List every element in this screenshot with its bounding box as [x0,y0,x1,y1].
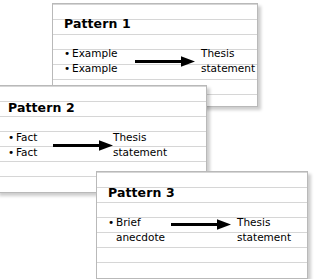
thesis-line: statement [237,230,291,245]
pattern-card-2-thesis: Thesis statement [113,130,167,160]
premise-item: Example [64,61,118,76]
right-arrow-icon [171,217,233,231]
pattern-card-2-title: Pattern 2 [8,100,75,115]
premise-item: Example [64,46,118,61]
thesis-line: Thesis [113,130,167,145]
pattern-card-3: Pattern 3 Brief anecdote Thesis statemen… [96,171,308,279]
thesis-line: Thesis [201,46,255,61]
right-arrow-icon [135,54,197,68]
thesis-line: statement [113,145,167,160]
right-arrow-icon [53,138,115,152]
thesis-line: Thesis [237,215,291,230]
pattern-card-1-thesis: Thesis statement [201,46,255,76]
premise-item: Fact [8,130,37,145]
premise-item: anecdote [108,230,165,245]
pattern-card-3-title: Pattern 3 [108,185,175,200]
pattern-card-3-thesis: Thesis statement [237,215,291,245]
premise-item: Brief [108,215,165,230]
pattern-card-3-body: Pattern 3 Brief anecdote Thesis statemen… [97,172,307,278]
premise-item: Fact [8,145,37,160]
pattern-card-1-title: Pattern 1 [64,16,131,31]
pattern-card-2-premise-list: Fact Fact [8,130,37,160]
pattern-card-1-premise-list: Example Example [64,46,118,76]
pattern-card-3-premise-list: Brief anecdote [108,215,165,245]
thesis-line: statement [201,61,255,76]
